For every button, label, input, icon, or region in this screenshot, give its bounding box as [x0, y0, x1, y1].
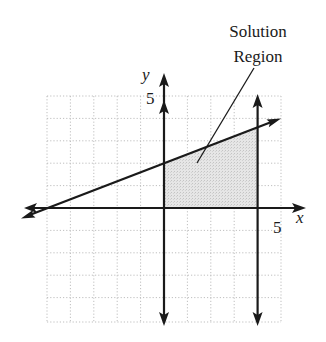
inequality-graph: Solution Region y 5 x 5 [0, 0, 326, 342]
annotation-line-1: Solution [229, 22, 287, 41]
y-tick-label-5: 5 [146, 89, 155, 108]
annotation-line-2: Region [233, 47, 283, 66]
x-axis-label: x [295, 208, 304, 227]
y-axis-label: y [140, 65, 150, 84]
x-tick-label-5: 5 [273, 218, 282, 237]
